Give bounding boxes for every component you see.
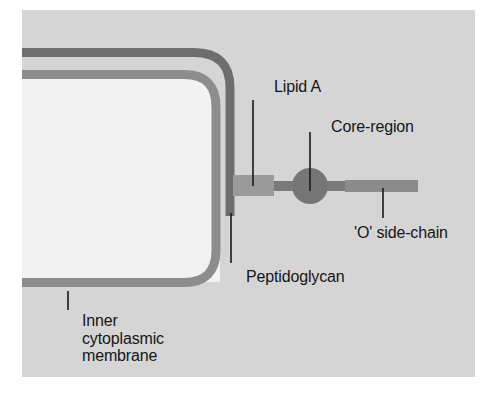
label-lipid-a: Lipid A — [274, 78, 321, 96]
label-inner-cytoplasmic-membrane: Inner cytoplasmic membrane — [82, 312, 164, 365]
diagram-panel: Lipid A Core-region 'O' side-chain Pepti… — [22, 10, 475, 377]
cytoplasm-fill — [22, 70, 220, 282]
label-peptidoglycan: Peptidoglycan — [246, 268, 345, 286]
label-o-side-chain: 'O' side-chain — [354, 224, 448, 242]
o-side-chain-bar — [345, 180, 418, 192]
label-core-region: Core-region — [331, 118, 414, 136]
figure-root: Lipid A Core-region 'O' side-chain Pepti… — [0, 0, 494, 401]
